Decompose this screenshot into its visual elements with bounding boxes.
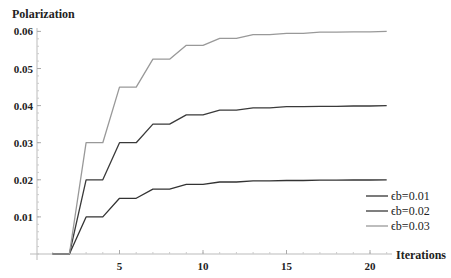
x-axis-title: Iterations <box>396 248 446 262</box>
series-line-1 <box>53 180 387 254</box>
legend-item-eb-0.03: ϵb=0.03 <box>366 219 430 233</box>
polarization-line-chart: 0.010.020.030.040.050.06 5101520 Polariz… <box>0 0 451 278</box>
x-tick-label: 20 <box>365 260 377 272</box>
x-axis: 5101520 <box>30 250 392 272</box>
y-tick-label: 0.06 <box>14 25 34 37</box>
x-tick-label: 5 <box>117 260 123 272</box>
y-tick-label: 0.02 <box>14 174 34 186</box>
legend: ϵb=0.01 ϵb=0.02 ϵb=0.03 <box>366 189 430 233</box>
legend-item-eb-0.01: ϵb=0.01 <box>366 189 430 203</box>
x-tick-label: 15 <box>281 260 293 272</box>
y-axis-title: Polarization <box>12 7 75 21</box>
y-axis: 0.010.020.030.040.050.06 <box>14 25 41 260</box>
legend-label: ϵb=0.03 <box>391 219 430 233</box>
series-line-3 <box>53 31 387 254</box>
y-tick-label: 0.04 <box>14 100 34 112</box>
y-tick-label: 0.05 <box>14 63 34 75</box>
legend-label: ϵb=0.02 <box>391 204 430 218</box>
x-tick-label: 10 <box>198 260 210 272</box>
legend-label: ϵb=0.01 <box>391 189 430 203</box>
legend-item-eb-0.02: ϵb=0.02 <box>366 204 430 218</box>
y-tick-label: 0.03 <box>14 137 34 149</box>
y-tick-label: 0.01 <box>14 211 33 223</box>
series-layer <box>53 31 387 254</box>
